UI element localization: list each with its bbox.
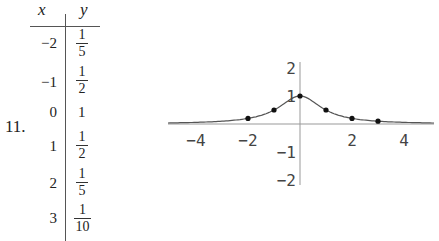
x-tick-label: 4: [399, 131, 409, 150]
data-point: [271, 107, 276, 112]
y-tick-label: 2: [286, 59, 296, 78]
x-tick-label: −4: [186, 131, 205, 150]
x-tick-label: 2: [347, 131, 357, 150]
y-tick-label: −2: [277, 171, 296, 190]
fitted-curve: [168, 96, 434, 123]
y-tick-label: −1: [277, 143, 296, 162]
chart: −4−22421−1−2: [0, 0, 439, 241]
data-point: [245, 116, 250, 121]
data-point: [375, 119, 380, 124]
x-tick-label: −2: [238, 131, 257, 150]
y-tick-label: 1: [286, 87, 296, 106]
data-point: [323, 107, 328, 112]
data-point: [297, 93, 302, 98]
data-point: [349, 116, 354, 121]
